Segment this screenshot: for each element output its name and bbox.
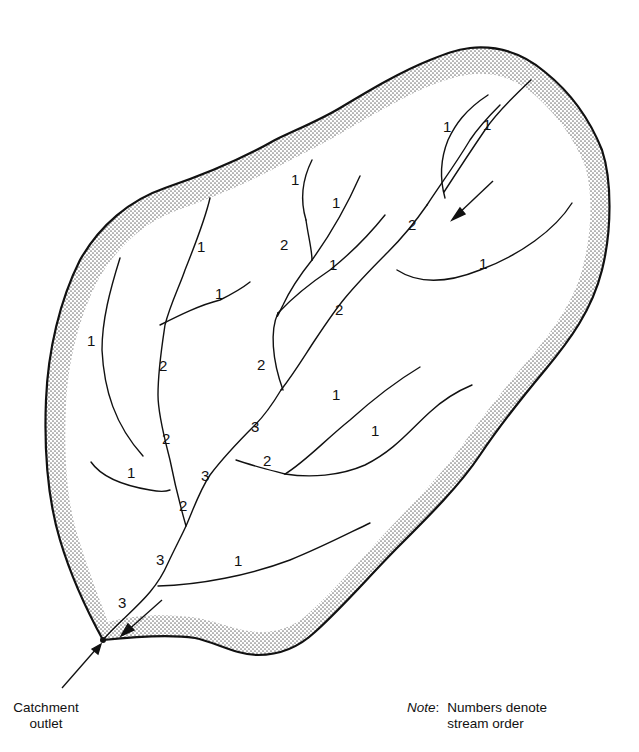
order-label: 1 [234,552,242,569]
catchment-outlet-point [100,637,106,643]
note-line2: stream order [447,716,547,732]
order-label: 2 [263,452,271,469]
order-label: 1 [332,386,340,403]
order-label: 1 [197,238,205,255]
order-label: 1 [291,171,299,188]
order-label: 2 [162,430,170,447]
order-label: 1 [87,332,95,349]
note-caption: Note: Numbers denote stream order [407,700,547,732]
order-label: 2 [257,356,265,373]
note-text: Numbers denote stream order [447,700,547,732]
order-label: 3 [201,467,209,484]
order-label: 2 [408,216,416,233]
catchment-diagram: 1 1 1 1 2 1 2 1 1 1 2 1 2 2 1 3 1 2 2 1 … [0,0,639,752]
order-label: 3 [118,594,126,611]
catchment-boundary-band [46,47,610,655]
order-label: 2 [159,357,167,374]
order-label: 1 [443,118,451,135]
order-label: 1 [332,194,340,211]
order-label: 2 [179,497,187,514]
order-label: 3 [251,418,259,435]
order-label: 2 [335,301,343,318]
note-colon: : [436,700,440,715]
order-label: 1 [329,256,337,273]
order-label: 3 [156,551,164,568]
order-label: 1 [371,422,379,439]
catchment-outlet-caption: Catchment outlet [8,700,84,732]
note-key-wrap: Note: [407,700,439,732]
outlet-caption-line1: Catchment [8,700,84,716]
order-label: 1 [483,116,491,133]
outlet-caption-line2: outlet [8,716,84,732]
outlet-pointer-arrow [62,644,101,688]
order-label: 1 [127,464,135,481]
order-label: 1 [215,285,223,302]
note-line1: Numbers denote [447,700,547,716]
note-key: Note [407,700,436,715]
order-label: 2 [280,236,288,253]
order-label: 1 [479,255,487,272]
